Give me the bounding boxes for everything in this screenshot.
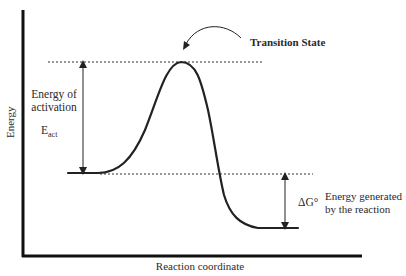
eact-symbol: Eact: [41, 124, 57, 141]
transition-state-label: Transition State: [250, 36, 325, 49]
generated-label-line2: by the reaction: [325, 203, 402, 216]
energy-diagram-canvas: [0, 0, 406, 276]
activation-energy-label: Energy of activation: [30, 88, 78, 114]
reaction-energy-curve: [68, 62, 298, 228]
generated-label-line1: Energy generated: [325, 190, 402, 203]
delta-g-symbol: ΔG°: [298, 196, 318, 209]
eact-subscript: act: [48, 130, 57, 139]
x-axis-label: Reaction coordinate: [140, 260, 260, 273]
activation-label-line1: Energy of: [30, 88, 78, 101]
transition-state-pointer-arrow: [186, 27, 241, 44]
energy-generated-label: Energy generated by the reaction: [325, 190, 402, 216]
activation-label-line2: activation: [30, 101, 78, 114]
eact-main: E: [41, 124, 48, 136]
y-axis-label: Energy: [4, 106, 17, 138]
